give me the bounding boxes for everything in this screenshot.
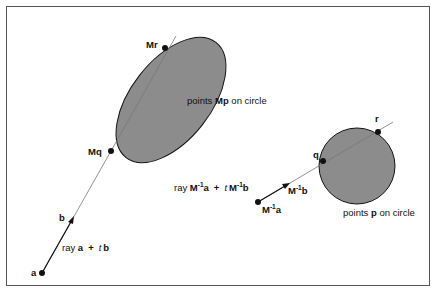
label-q: q [313, 149, 319, 160]
unit-circle [319, 128, 395, 204]
right-direction-arrow [258, 186, 285, 202]
label-a: a [31, 267, 37, 278]
left-ray-label: ray a+tb [62, 242, 109, 253]
label-m-inv-a: M-1a [262, 203, 282, 215]
ellipse-label: points Mp on circle [187, 95, 267, 106]
diagram-canvas: a b Mq Mr ray a+tb points Mp on circle r… [0, 0, 437, 295]
circle-label: points p on circle [343, 207, 415, 218]
right-ray-label: ray M-1a+tM-1b [174, 181, 249, 193]
point-mq [108, 148, 114, 154]
point-m-inv-a [255, 199, 261, 205]
label-b: b [59, 212, 65, 223]
point-q [320, 158, 326, 164]
point-r [375, 129, 381, 135]
label-m-inv-b: M-1b [288, 184, 308, 196]
label-mr: Mr [146, 39, 158, 50]
point-mr [162, 45, 168, 51]
arrowhead-icon [68, 216, 74, 224]
label-r: r [375, 113, 379, 124]
point-a [39, 270, 45, 276]
label-mq: Mq [88, 146, 102, 157]
